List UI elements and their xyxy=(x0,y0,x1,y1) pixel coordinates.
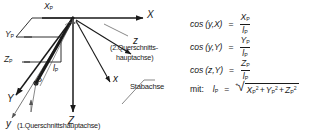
label-yp: YP xyxy=(5,30,14,39)
radical-icon: √ xyxy=(237,82,244,92)
equation-cos-y-X: cos (y,X) = XP lP xyxy=(190,13,252,35)
equals-sign: = xyxy=(224,84,229,94)
label-point-p: P xyxy=(36,77,41,86)
fraction-numerator: ZP xyxy=(239,59,252,70)
equations-panel: cos (y,X) = XP lP cos (y,Y) = YP lP cos … xyxy=(182,0,312,137)
figure-root: XP YP ZP lP X Z Y z x y P xyxy=(0,0,312,137)
fraction: XP lP xyxy=(238,13,251,35)
label-zp: ZP xyxy=(4,55,12,64)
equation-cos-y-Y: cos (y,Y) = YP lP xyxy=(190,36,252,58)
annotation-member-axis: Stabachse xyxy=(130,83,164,91)
fraction-denominator: lP xyxy=(240,24,249,36)
fraction-denominator: lP xyxy=(240,47,249,59)
annotation-first-principal-axis: (1.Querschnittshauptachse) xyxy=(17,122,100,129)
square-root-expression: + √ XP2+YP2+ZP2 xyxy=(234,82,298,95)
label-axis-local-y: y xyxy=(6,119,11,129)
definition-prefix: mit: xyxy=(190,84,204,94)
coordinate-system-diagram: XP YP ZP lP X Z Y z x y P xyxy=(0,0,182,137)
equals-sign: = xyxy=(229,65,234,75)
label-axis-local-x: x xyxy=(113,74,118,84)
label-lp: lP xyxy=(53,64,58,73)
label-axis-global-x: X xyxy=(147,10,153,20)
definition-lp: mit: lP = + √ XP2+YP2+ZP2 xyxy=(190,82,299,95)
radicand: XP2+YP2+ZP2 xyxy=(245,83,299,95)
fraction: YP lP xyxy=(238,36,251,58)
equals-sign: = xyxy=(228,42,233,52)
equation-lhs: cos (y,Y) xyxy=(190,42,222,52)
equation-cos-z-Y: cos (z,Y) = ZP lP xyxy=(190,59,252,81)
axis-global-y-line xyxy=(16,18,73,95)
point-p-drop-line xyxy=(31,83,36,112)
annotation-second-principal-axis-line1: (2.Querschnitts- xyxy=(110,44,158,51)
label-xp: XP xyxy=(44,2,53,11)
annotation-second-principal-axis-line2: hauptachse) xyxy=(116,54,153,61)
definition-symbol: lP xyxy=(213,84,218,94)
fraction-numerator: YP xyxy=(238,36,251,47)
label-axis-global-y: Y xyxy=(7,94,13,104)
fraction-numerator: XP xyxy=(238,13,251,24)
equation-lhs: cos (z,Y) xyxy=(190,65,223,75)
projection-yp-segment xyxy=(16,18,32,37)
equation-lhs: cos (y,X) xyxy=(190,19,222,29)
fraction: ZP lP xyxy=(239,59,252,81)
equals-sign: = xyxy=(228,19,233,29)
diagram-vector-graphics xyxy=(0,0,182,137)
leader-second-principal-axis xyxy=(104,24,128,36)
